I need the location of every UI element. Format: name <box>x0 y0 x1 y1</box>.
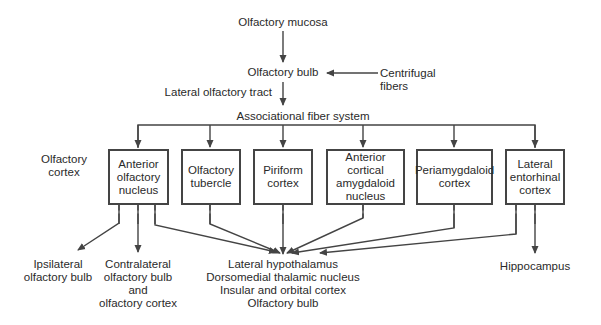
output-hypothalamus-thalamus-cortex-bulb: Lateral hypothalamus Dorsomedial thalami… <box>203 258 363 310</box>
box-lateral-entorhinal-cortex: Lateral entorhinal cortex <box>505 149 565 205</box>
output-contralateral-olfactory-bulb-cortex: Contralateral olfactory bulb and olfacto… <box>98 258 178 310</box>
olfactory-mucosa-label: Olfactory mucosa <box>233 16 333 29</box>
box-label: Olfactory tubercle <box>188 164 234 190</box>
olfactory-bulb-label: Olfactory bulb <box>243 66 323 79</box>
olfactory-pathway-diagram: Olfactory mucosa Olfactory bulb Centrifu… <box>0 0 601 325</box>
box-piriform-cortex: Piriform cortex <box>253 149 313 205</box>
box-label: Anterior olfactory nucleus <box>117 158 160 197</box>
output-hippocampus: Hippocampus <box>495 260 575 273</box>
centrifugal-fibers-label: Centrifugal fibers <box>380 67 450 93</box>
box-label: Periamygdaloid cortex <box>415 164 494 190</box>
box-label: Anterior cortical amygdaloid nucleus <box>336 151 395 203</box>
box-label: Piriform cortex <box>263 164 303 190</box>
box-label: Lateral entorhinal cortex <box>510 158 561 197</box>
olfactory-cortex-label: Olfactory cortex <box>34 153 94 179</box>
box-periamygdaloid-cortex: Periamygdaloid cortex <box>416 149 493 205</box>
output-ipsilateral-olfactory-bulb: Ipsilateral olfactory bulb <box>18 258 98 284</box>
box-olfactory-tubercle: Olfactory tubercle <box>181 149 241 205</box>
box-anterior-cortical-amygdaloid-nucleus: Anterior cortical amygdaloid nucleus <box>326 149 405 205</box>
box-anterior-olfactory-nucleus: Anterior olfactory nucleus <box>108 149 169 205</box>
lateral-olfactory-tract-label: Lateral olfactory tract <box>132 86 272 99</box>
associational-fiber-system-label: Associational fiber system <box>228 110 378 123</box>
